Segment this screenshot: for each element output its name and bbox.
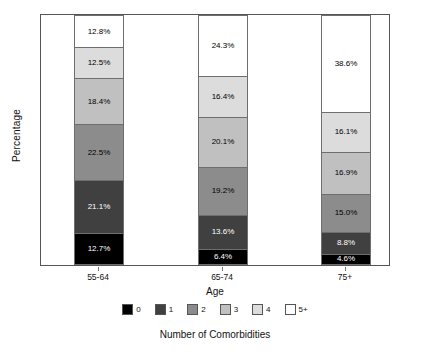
bar-segment-55-64-level-0[interactable]: 12.7% — [74, 233, 124, 265]
legend-swatch-2 — [187, 304, 198, 315]
segment-value-label: 8.8% — [337, 239, 355, 247]
segment-value-label: 4.6% — [337, 255, 355, 263]
segment-value-label: 15.0% — [335, 209, 358, 217]
x-tick-label-65-74: 65-74 — [192, 272, 252, 282]
bar-segment-65-74-level-3[interactable]: 20.1% — [198, 117, 248, 167]
legend-label-2: 2 — [201, 306, 205, 314]
x-axis-title: Age — [0, 286, 430, 297]
segment-value-label: 20.1% — [212, 138, 235, 146]
x-tick-65-74 — [222, 267, 223, 271]
bar-segment-65-74-level-5+[interactable]: 24.3% — [198, 15, 248, 76]
legend-swatch-4 — [252, 304, 263, 315]
legend-swatch-1 — [155, 304, 166, 315]
legend-item-5plus[interactable]: 5+ — [285, 304, 308, 315]
segment-value-label: 13.6% — [212, 228, 235, 236]
y-axis-title: Percentage — [0, 0, 34, 270]
segment-value-label: 19.2% — [212, 187, 235, 195]
plot-inner: 12.8%12.5%18.4%22.5%21.1%12.7%24.3%16.4%… — [41, 15, 389, 265]
bar-75+[interactable]: 38.6%16.1%16.9%15.0%8.8%4.6% — [321, 15, 371, 265]
segment-value-label: 22.5% — [88, 149, 111, 157]
stacked-bar-chart-figure: Percentage 12.8%12.5%18.4%22.5%21.1%12.7… — [0, 0, 430, 352]
legend-item-3[interactable]: 3 — [220, 304, 238, 315]
segment-value-label: 12.7% — [88, 245, 111, 253]
bar-segment-65-74-level-2[interactable]: 19.2% — [198, 167, 248, 215]
legend-item-4[interactable]: 4 — [252, 304, 270, 315]
segment-value-label: 21.1% — [88, 203, 111, 211]
legend-label-1: 1 — [169, 306, 173, 314]
bar-segment-55-64-level-2[interactable]: 22.5% — [74, 124, 124, 180]
segment-value-label: 6.4% — [214, 253, 232, 261]
segment-value-label: 12.5% — [88, 59, 111, 67]
bar-segment-65-74-level-1[interactable]: 13.6% — [198, 215, 248, 249]
bar-segment-55-64-level-3[interactable]: 18.4% — [74, 78, 124, 124]
bar-65-74[interactable]: 24.3%16.4%20.1%19.2%13.6%6.4% — [198, 15, 248, 265]
x-tick-label-55-64: 55-64 — [68, 272, 128, 282]
legend-item-2[interactable]: 2 — [187, 304, 205, 315]
legend-swatch-5plus — [285, 304, 296, 315]
bar-segment-75+-level-0[interactable]: 4.6% — [321, 254, 371, 266]
legend-swatch-0 — [122, 304, 133, 315]
segment-value-label: 38.6% — [335, 60, 358, 68]
bar-segment-55-64-level-4[interactable]: 12.5% — [74, 47, 124, 78]
bar-55-64[interactable]: 12.8%12.5%18.4%22.5%21.1%12.7% — [74, 15, 124, 265]
bar-segment-55-64-level-1[interactable]: 21.1% — [74, 180, 124, 233]
bar-segment-65-74-level-4[interactable]: 16.4% — [198, 76, 248, 117]
x-tick-55-64 — [98, 267, 99, 271]
segment-value-label: 16.4% — [212, 93, 235, 101]
bar-segment-75+-level-5+[interactable]: 38.6% — [321, 15, 371, 112]
legend-title-caption: Number of Comorbidities — [0, 329, 430, 340]
segment-value-label: 12.8% — [88, 28, 111, 36]
legend-label-0: 0 — [136, 306, 140, 314]
y-axis-title-text: Percentage — [12, 108, 23, 161]
legend-item-0[interactable]: 0 — [122, 304, 140, 315]
bar-segment-75+-level-4[interactable]: 16.1% — [321, 112, 371, 152]
segment-value-label: 16.1% — [335, 128, 358, 136]
bar-segment-55-64-level-5+[interactable]: 12.8% — [74, 15, 124, 47]
legend-swatch-3 — [220, 304, 231, 315]
bar-segment-75+-level-1[interactable]: 8.8% — [321, 232, 371, 254]
segment-value-label: 16.9% — [335, 169, 358, 177]
segment-value-label: 24.3% — [212, 42, 235, 50]
legend: 012345+ — [0, 304, 430, 315]
legend-label-3: 3 — [234, 306, 238, 314]
legend-item-1[interactable]: 1 — [155, 304, 173, 315]
segment-value-label: 18.4% — [88, 98, 111, 106]
bar-segment-75+-level-3[interactable]: 16.9% — [321, 152, 371, 194]
x-tick-75+ — [345, 267, 346, 271]
bar-segment-65-74-level-0[interactable]: 6.4% — [198, 249, 248, 265]
bar-segment-75+-level-2[interactable]: 15.0% — [321, 194, 371, 232]
legend-label-4: 4 — [266, 306, 270, 314]
plot-area: 12.8%12.5%18.4%22.5%21.1%12.7%24.3%16.4%… — [40, 14, 390, 266]
legend-label-5plus: 5+ — [299, 306, 308, 314]
x-tick-label-75+: 75+ — [315, 272, 375, 282]
